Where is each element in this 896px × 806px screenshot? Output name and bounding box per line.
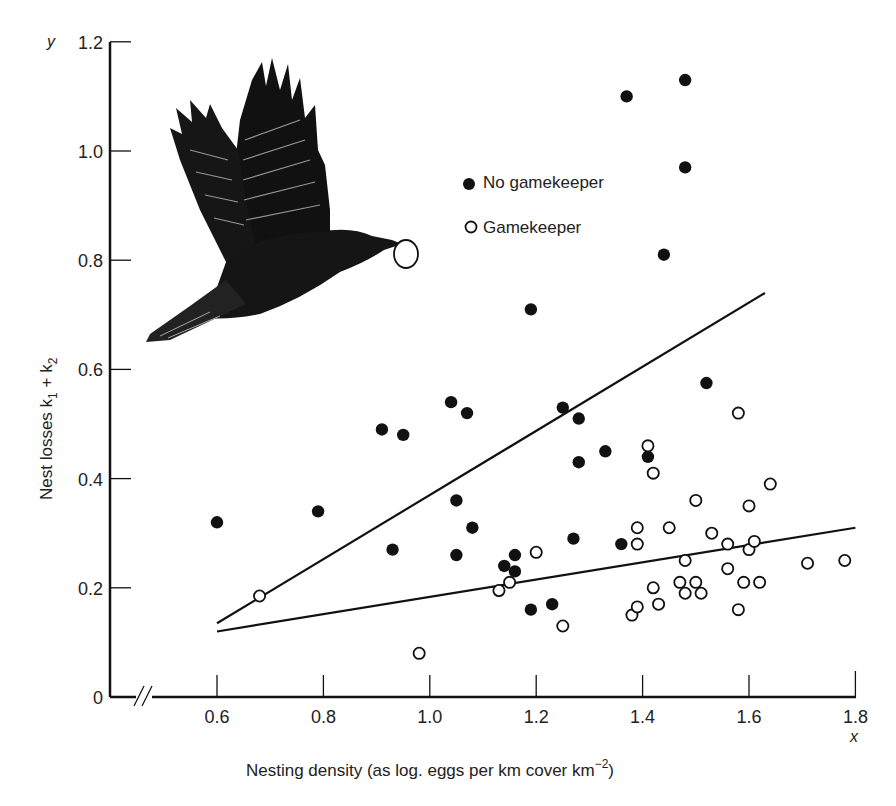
data-point-no-gamekeeper [679,161,691,173]
data-point-no-gamekeeper [445,396,457,408]
data-point-gamekeeper [722,563,733,574]
data-point-gamekeeper [531,547,542,558]
data-point-no-gamekeeper [615,538,627,550]
data-point-no-gamekeeper [573,456,585,468]
data-point-gamekeeper [738,577,749,588]
data-point-no-gamekeeper [525,303,537,315]
y-tick-label: 1.2 [78,33,103,53]
data-point-gamekeeper [680,588,691,599]
data-point-no-gamekeeper [376,423,388,435]
data-point-no-gamekeeper [312,505,324,517]
scatter-chart: 00.20.40.60.81.01.2 0.60.81.01.21.41.61.… [0,0,896,806]
data-point-no-gamekeeper [546,598,558,610]
data-point-gamekeeper [680,555,691,566]
data-point-no-gamekeeper [461,407,473,419]
data-point-no-gamekeeper [620,90,632,102]
y-tick-label: 1.0 [78,142,103,162]
y-tick-label: 0 [93,688,103,708]
data-point-no-gamekeeper [450,549,462,561]
data-point-gamekeeper [632,601,643,612]
data-point-no-gamekeeper [466,522,478,534]
data-point-gamekeeper [493,585,504,596]
legend-label-gamekeeper: Gamekeeper [483,218,582,237]
y-variable-label: y [46,33,56,50]
data-point-gamekeeper [706,528,717,539]
data-point-gamekeeper [632,522,643,533]
data-point-gamekeeper [642,440,653,451]
legend-filled-circle-icon [463,178,475,190]
data-point-gamekeeper [765,478,776,489]
legend-open-circle-icon [466,222,477,233]
data-point-gamekeeper [690,495,701,506]
data-point-no-gamekeeper [450,494,462,506]
data-point-gamekeeper [839,555,850,566]
data-point-no-gamekeeper [679,74,691,86]
data-point-no-gamekeeper [386,543,398,555]
legend: No gamekeeper Gamekeeper [463,173,604,237]
data-point-no-gamekeeper [700,377,712,389]
data-point-no-gamekeeper [642,451,654,463]
data-point-gamekeeper [254,590,265,601]
x-variable-label: x [849,728,859,745]
data-point-gamekeeper [722,539,733,550]
data-point-no-gamekeeper [658,249,670,261]
axis-break-icon [134,686,152,706]
data-point-gamekeeper [557,620,568,631]
data-point-no-gamekeeper [211,516,223,528]
x-axis-title: Nesting density (as log. eggs per km cov… [246,757,614,780]
data-point-gamekeeper [754,577,765,588]
legend-label-no-gamekeeper: No gamekeeper [483,173,604,192]
data-point-no-gamekeeper [498,560,510,572]
data-point-gamekeeper [648,582,659,593]
data-point-gamekeeper [648,468,659,479]
data-point-gamekeeper [802,558,813,569]
y-tick-label: 0.2 [78,579,103,599]
y-tick-label: 0.6 [78,360,103,380]
data-point-gamekeeper [733,604,744,615]
x-tick-label: 1.2 [524,707,549,727]
data-point-gamekeeper [690,577,701,588]
x-tick-label: 1.8 [843,707,868,727]
data-point-gamekeeper [733,407,744,418]
x-tick-label: 0.6 [204,707,229,727]
x-tick-label: 1.0 [417,707,442,727]
data-point-no-gamekeeper [599,445,611,457]
x-tick-label: 1.6 [736,707,761,727]
y-axis-ticks: 00.20.40.60.81.01.2 [78,33,131,708]
y-tick-label: 0.4 [78,470,103,490]
data-point-gamekeeper [743,500,754,511]
data-point-gamekeeper [414,648,425,659]
y-tick-label: 0.8 [78,251,103,271]
x-axis-ticks: 0.60.81.01.21.41.61.8 [204,671,867,727]
data-point-gamekeeper [664,522,675,533]
data-point-no-gamekeeper [397,429,409,441]
crow-illustration-icon [146,58,418,342]
x-tick-label: 0.8 [311,707,336,727]
data-point-gamekeeper [632,539,643,550]
data-point-no-gamekeeper [509,549,521,561]
data-point-gamekeeper [504,577,515,588]
data-point-gamekeeper [696,588,707,599]
data-point-no-gamekeeper [557,401,569,413]
data-point-no-gamekeeper [525,603,537,615]
data-point-no-gamekeeper [567,532,579,544]
regression-line-no-gamekeeper [217,293,765,623]
data-point-gamekeeper [674,577,685,588]
data-point-gamekeeper [653,599,664,610]
data-point-gamekeeper [749,536,760,547]
y-axis-title: Nest losses k1 + k2 [37,357,60,500]
data-point-no-gamekeeper [573,412,585,424]
x-tick-label: 1.4 [630,707,655,727]
data-point-no-gamekeeper [509,565,521,577]
